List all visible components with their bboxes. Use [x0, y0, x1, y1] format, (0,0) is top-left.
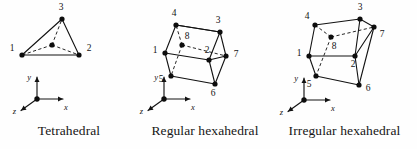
z-axis-arrowhead	[21, 106, 27, 111]
axis-origin	[34, 96, 39, 101]
edge-5-6	[171, 76, 215, 84]
axis-label-z: z	[12, 106, 17, 116]
edge-3-4	[315, 19, 360, 25]
edge-2-6	[355, 56, 359, 85]
tetrahedral-diagram: 123 yxz	[0, 0, 138, 122]
caption-tetrahedral: Tetrahedral	[0, 123, 138, 139]
regular-hexahedral-diagram: 12345678 yxz	[134, 0, 276, 122]
hidden-edge-8-4	[315, 25, 331, 37]
node-label-3: 3	[59, 2, 64, 12]
z-axis-arrowhead	[288, 107, 294, 112]
node-label-2: 2	[87, 43, 92, 53]
node-1	[306, 53, 311, 58]
hidden-edge-4-1	[22, 45, 52, 55]
node-label-3: 3	[358, 2, 363, 12]
node-label-2: 2	[205, 45, 210, 55]
hidden-edge-8-7	[331, 27, 374, 37]
axis-origin	[301, 97, 306, 102]
node-label-6: 6	[211, 88, 216, 98]
node-5	[168, 73, 173, 78]
node-label-5: 5	[307, 79, 312, 89]
node-7	[223, 53, 228, 58]
axis-label-y: y	[26, 72, 31, 82]
node-label-1: 1	[153, 45, 158, 55]
node-label-1: 1	[297, 48, 302, 58]
node-2	[206, 57, 211, 62]
panel-irregular-hexahedral: 12345678 yxz Irregular hexahedral	[272, 0, 417, 149]
edge-4-1	[165, 25, 176, 53]
tetrahedral-geometry: 123	[10, 2, 92, 57]
edge-4-1	[309, 25, 315, 56]
axis-label-y: y	[293, 73, 298, 83]
node-2	[76, 52, 81, 57]
node-label-7: 7	[380, 29, 385, 39]
edge-7-3	[220, 32, 226, 56]
node-label-8: 8	[185, 31, 190, 41]
irregular-hexahedral-geometry: 12345678	[297, 2, 385, 93]
node-label-5: 5	[159, 74, 164, 84]
axis-label-x: x	[190, 102, 195, 112]
edge-1-2	[165, 53, 209, 60]
node-4	[49, 42, 54, 47]
node-6	[212, 81, 217, 86]
caption-regular-hexahedral: Regular hexahedral	[134, 123, 276, 139]
edge-4-3	[176, 25, 220, 32]
y-axis-arrowhead	[35, 77, 40, 82]
edge-2-7	[209, 56, 226, 60]
node-label-6: 6	[366, 83, 371, 93]
caption-irregular-hexahedral: Irregular hexahedral	[272, 123, 417, 139]
edge-6-7	[215, 56, 226, 84]
node-label-1: 1	[10, 43, 15, 53]
edge-1-5	[165, 53, 171, 76]
panel-regular-hexahedral: 12345678 yxz Regular hexahedral	[134, 0, 276, 149]
node-1	[162, 50, 167, 55]
x-axis-arrowhead	[58, 97, 63, 102]
node-1	[19, 52, 24, 57]
node-8	[179, 42, 184, 47]
node-8	[328, 34, 333, 39]
node-label-3: 3	[216, 15, 221, 25]
hidden-edge-8-4	[176, 25, 182, 45]
node-4	[312, 22, 317, 27]
node-3	[59, 16, 64, 21]
node-3	[217, 29, 222, 34]
edge-2-3	[209, 32, 220, 60]
regular-hexahedral-geometry: 12345678	[153, 8, 239, 98]
node-7	[371, 24, 376, 29]
edge-5-6	[316, 76, 359, 85]
panel-tetrahedral: 123 yxz Tetrahedral	[0, 0, 138, 149]
axis-label-z: z	[279, 107, 284, 117]
node-label-8: 8	[332, 41, 337, 51]
edge-6-7	[359, 27, 374, 85]
axis-label-y: y	[153, 72, 158, 82]
x-axis-arrowhead	[185, 97, 190, 102]
node-label-2: 2	[351, 59, 356, 69]
axis-label-x: x	[63, 102, 68, 112]
edge-2-6	[209, 60, 215, 84]
tetrahedral-axes: yxz	[12, 72, 68, 117]
node-3	[357, 16, 362, 21]
hidden-edge-8-5	[171, 45, 182, 76]
node-label-7: 7	[234, 49, 239, 59]
edge-1-5	[309, 56, 316, 76]
x-axis-arrowhead	[325, 98, 330, 103]
node-label-4: 4	[172, 8, 177, 18]
node-5	[313, 73, 318, 78]
edge-1-3	[22, 19, 62, 55]
z-axis-arrowhead	[148, 106, 154, 111]
node-6	[356, 82, 361, 87]
axis-origin	[161, 96, 166, 101]
node-4	[173, 22, 178, 27]
axis-label-z: z	[139, 106, 144, 116]
node-2	[352, 53, 357, 58]
node-label-4: 4	[305, 11, 310, 21]
element-types-figure: 123 yxz Tetrahedral 12345678 yxz Regular…	[0, 0, 417, 149]
axis-label-x: x	[330, 103, 335, 113]
irregular-hexahedral-diagram: 12345678 yxz	[272, 0, 417, 122]
